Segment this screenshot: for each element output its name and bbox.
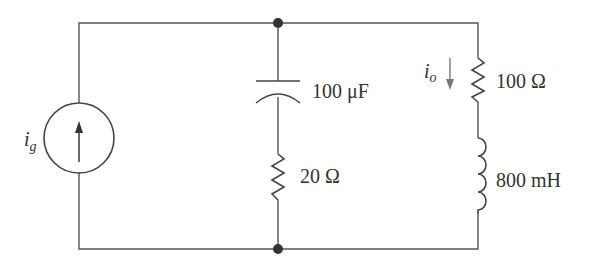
- inductor: 800 mH: [478, 138, 561, 214]
- output-current-indicator: io: [424, 58, 454, 90]
- output-current-label: io: [424, 60, 437, 85]
- bottom-node: [273, 244, 283, 254]
- top-node: [273, 18, 283, 28]
- resistor-100-ohm: 100 Ω: [472, 58, 546, 102]
- inductor-label: 800 mH: [496, 169, 561, 191]
- inductor-coil: [478, 138, 486, 214]
- resistor-20-ohm-label: 20 Ω: [300, 165, 340, 187]
- output-current-arrowhead-icon: [446, 79, 454, 90]
- resistor-100-ohm-label: 100 Ω: [496, 70, 546, 92]
- wires: [79, 23, 478, 249]
- resistor-100-ohm-zigzag: [472, 58, 484, 102]
- source-label: ig: [24, 128, 37, 154]
- current-source: ig: [24, 103, 114, 173]
- resistor-20-ohm: 20 Ω: [272, 154, 340, 200]
- capacitor: 100 μF: [256, 80, 369, 103]
- source-arrowhead-icon: [75, 121, 83, 133]
- capacitor-label: 100 μF: [312, 80, 369, 103]
- resistor-20-ohm-zigzag: [272, 154, 284, 200]
- circuit-diagram: ig 100 μF 20 Ω 100 Ω io 800 mH: [0, 0, 590, 278]
